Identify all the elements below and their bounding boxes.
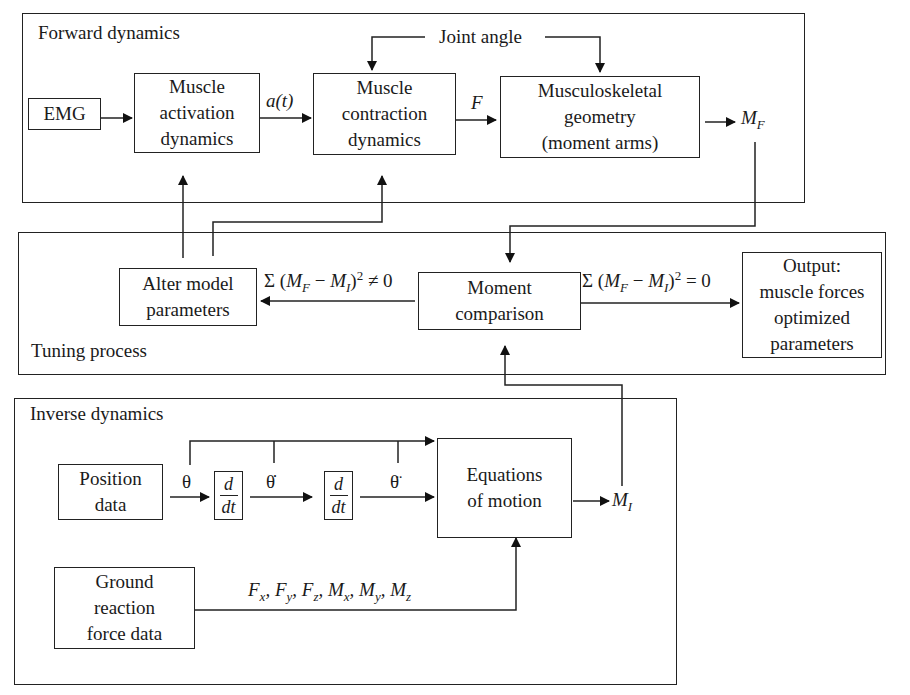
derivative-fraction-2: d dt: [330, 474, 348, 517]
derivative-numerator: d: [224, 474, 233, 494]
output-line-4: parameters: [770, 331, 853, 357]
output-line-2: muscle forces: [760, 279, 865, 305]
alter-line-2: parameters: [146, 297, 229, 323]
ground-line-1: Ground: [95, 569, 153, 595]
activation-line-3: dynamics: [161, 126, 234, 152]
activation-line-2: activation: [160, 100, 235, 126]
muscle-activation-box: Muscle activation dynamics: [134, 73, 260, 153]
comparison-line-1: Moment: [467, 275, 531, 301]
equal-condition-label: Σ (MF − MI)2 = 0: [582, 270, 711, 292]
alter-model-parameters-box: Alter model parameters: [119, 268, 257, 326]
position-line-2: data: [95, 492, 127, 518]
theta-dot-label: θ̇: [266, 471, 275, 493]
moment-comparison-box: Moment comparison: [418, 272, 581, 330]
geometry-line-1: Musculoskeletal: [538, 78, 663, 104]
derivative-box-2: d dt: [324, 471, 353, 520]
not-equal-condition-label: Σ (MF − MI)2 ≠ 0: [264, 270, 393, 292]
output-line-3: optimized: [774, 305, 850, 331]
equations-line-2: of motion: [467, 488, 541, 514]
mf-subscript: F: [757, 117, 765, 132]
ground-line-2: reaction: [94, 595, 155, 621]
derivative-numerator: d: [334, 474, 343, 494]
activation-line-1: Muscle: [169, 74, 225, 100]
emg-box: EMG: [28, 98, 101, 130]
derivative-fraction-1: d dt: [220, 474, 238, 517]
musculoskeletal-geometry-box: Musculoskeletal geometry (moment arms): [500, 76, 700, 158]
contraction-line-3: dynamics: [348, 127, 421, 153]
output-line-1: Output:: [783, 253, 841, 279]
derivative-denominator: dt: [331, 497, 345, 517]
joint-angle-label: Joint angle: [439, 26, 522, 48]
activation-signal-label: a(t): [266, 90, 293, 112]
derivative-box-1: d dt: [214, 471, 243, 520]
inverse-dynamics-title: Inverse dynamics: [30, 403, 163, 425]
mi-subscript: I: [628, 499, 632, 514]
force-signal-label: F: [471, 92, 483, 114]
contraction-line-2: contraction: [342, 101, 427, 127]
forward-dynamics-title: Forward dynamics: [38, 22, 180, 44]
output-box: Output: muscle forces optimized paramete…: [742, 252, 882, 358]
theta-ddot-label: θ̈: [390, 471, 399, 493]
equations-line-1: Equations: [467, 462, 543, 488]
alter-line-1: Alter model: [142, 271, 233, 297]
contraction-line-1: Muscle: [357, 75, 413, 101]
ground-reaction-force-box: Ground reaction force data: [54, 567, 195, 649]
grf-components-label: Fx, Fy, Fz, Mx, My, Mz: [248, 579, 411, 601]
geometry-line-3: (moment arms): [542, 130, 659, 156]
mi-symbol: M: [612, 489, 628, 510]
mi-output-label: MI: [612, 489, 632, 511]
ground-line-3: force data: [87, 621, 162, 647]
tuning-process-title: Tuning process: [31, 340, 147, 362]
position-line-1: Position: [79, 466, 141, 492]
mf-symbol: M: [741, 107, 757, 128]
comparison-line-2: comparison: [455, 301, 544, 327]
equations-of-motion-box: Equations of motion: [437, 438, 572, 538]
position-data-box: Position data: [58, 464, 163, 520]
theta-label: θ: [182, 471, 191, 493]
geometry-line-2: geometry: [564, 104, 636, 130]
mf-output-label: MF: [741, 107, 765, 129]
emg-label: EMG: [43, 101, 85, 127]
muscle-contraction-box: Muscle contraction dynamics: [313, 73, 456, 155]
derivative-denominator: dt: [221, 497, 235, 517]
